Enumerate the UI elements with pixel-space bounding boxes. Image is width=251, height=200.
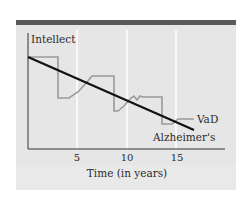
vad-label: VaD: [197, 113, 218, 125]
x-tick-10: 10: [121, 152, 134, 163]
alzheimers-line: [28, 57, 194, 130]
y-axis-label: Intellect: [31, 33, 75, 45]
x-tick-5: 5: [74, 152, 80, 163]
x-tick-15: 15: [171, 152, 184, 163]
alzheimers-label: Alzheimer's: [153, 131, 215, 143]
x-axis-label: Time (in years): [87, 167, 167, 179]
